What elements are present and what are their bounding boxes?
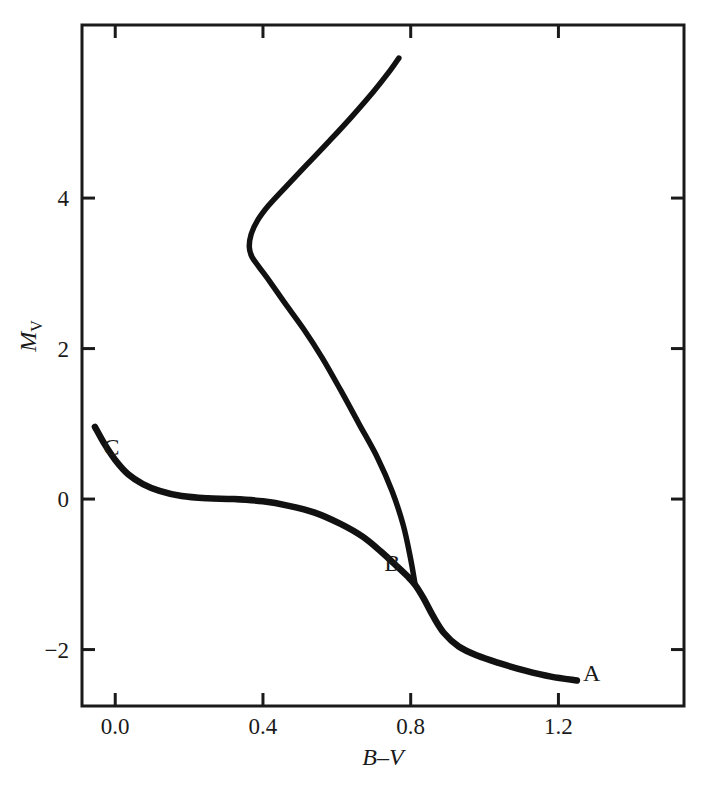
y-tick-label-0: −2 [45,638,69,663]
label-c: C [104,434,120,460]
plot-background [0,0,713,787]
x-tick-label-1: 0.4 [249,714,278,739]
hr-diagram-figure: 0.00.40.81.2 −2024 ABC B–V MV [0,0,713,787]
color-magnitude-diagram: 0.00.40.81.2 −2024 ABC B–V MV [0,0,713,787]
label-b: B [384,550,400,576]
x-tick-label-0: 0.0 [101,714,130,739]
x-axis-title: B–V [362,744,406,770]
x-tick-label-2: 0.8 [396,714,425,739]
label-a: A [583,660,601,686]
x-tick-label-3: 1.2 [544,714,573,739]
y-tick-label-2: 2 [58,337,70,362]
y-tick-label-3: 4 [58,186,70,211]
y-tick-label-1: 0 [58,487,70,512]
